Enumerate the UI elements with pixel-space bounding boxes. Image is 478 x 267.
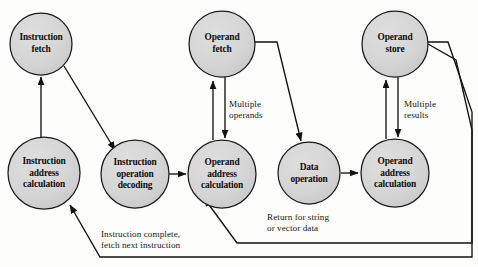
edge-label-multiple-results: Multiple results [404, 99, 436, 122]
edge-label-instruction-complete-fetch-next-instruction: Instruction complete, fetch next instruc… [101, 229, 180, 252]
node-operand-address-calculation-left[interactable] [188, 140, 256, 208]
node-data-operation[interactable] [278, 142, 340, 204]
diagram-svg [0, 0, 478, 267]
diagram-canvas: Instruction fetch Operand fetch Operand … [0, 0, 478, 267]
node-instruction-address-calculation[interactable] [8, 137, 80, 209]
node-operand-fetch[interactable] [189, 11, 255, 77]
node-operand-store[interactable] [362, 11, 428, 77]
edge-operand-fetch-to-data-operation [254, 42, 301, 141]
node-instruction-fetch[interactable] [10, 13, 72, 75]
edge-label-return-for-string-or-vector-data: Return for string or vector data [267, 212, 329, 235]
edge-instruction-fetch-to-instruction-operation-decoding [64, 66, 115, 150]
node-circles [8, 11, 429, 209]
edge-label-multiple-operands: Multiple operands [229, 99, 263, 122]
node-instruction-operation-decoding[interactable] [101, 140, 169, 208]
node-operand-address-calculation-right[interactable] [361, 139, 429, 207]
edge-return-for-string-or-vector-data [204, 42, 472, 243]
